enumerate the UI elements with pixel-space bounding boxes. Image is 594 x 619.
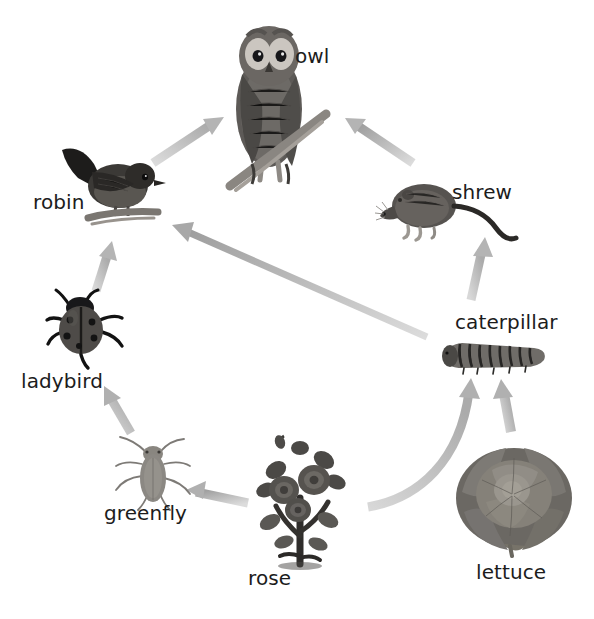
arrow-lettuce-to-caterpillar: [493, 379, 513, 432]
node-label-shrew: shrew: [452, 180, 512, 204]
owl-icon: [222, 14, 332, 194]
ladybird-icon: [46, 288, 134, 370]
lettuce-icon: [452, 440, 576, 558]
caterpillar-icon: [440, 334, 552, 376]
rose-icon: [250, 436, 354, 570]
robin-icon: [58, 138, 166, 230]
node-label-robin: robin: [33, 190, 84, 214]
node-label-caterpillar: caterpillar: [455, 310, 558, 334]
food-web-diagram: owl robin: [0, 0, 594, 619]
arrow-greenfly-to-ladybird: [104, 386, 131, 433]
node-label-owl: owl: [295, 44, 329, 68]
node-label-lettuce: lettuce: [476, 560, 546, 584]
arrow-shrew-to-owl: [345, 118, 413, 163]
node-label-ladybird: ladybird: [21, 369, 103, 393]
arrow-ladybird-to-robin: [96, 241, 117, 291]
node-label-rose: rose: [248, 566, 291, 590]
node-label-greenfly: greenfly: [104, 501, 187, 525]
